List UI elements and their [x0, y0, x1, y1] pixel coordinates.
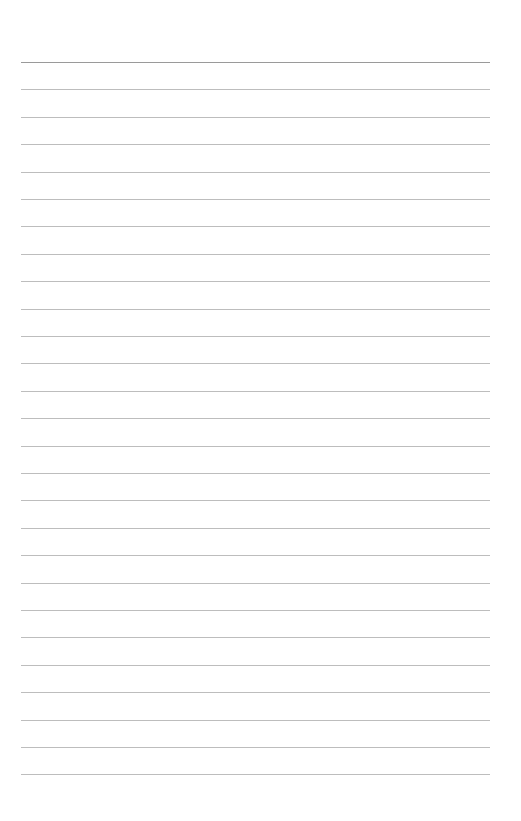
ruled-line — [21, 199, 490, 200]
ruled-line — [21, 89, 490, 90]
ruled-line — [21, 747, 490, 748]
ruled-line — [21, 363, 490, 364]
ruled-line — [21, 720, 490, 721]
ruled-line — [21, 309, 490, 310]
ruled-line — [21, 473, 490, 474]
ruled-line — [21, 254, 490, 255]
ruled-line — [21, 117, 490, 118]
ruled-line — [21, 774, 490, 775]
ruled-line — [21, 692, 490, 693]
ruled-line — [21, 62, 490, 63]
ruled-line — [21, 144, 490, 145]
ruled-line — [21, 500, 490, 501]
ruled-line — [21, 583, 490, 584]
ruled-line — [21, 446, 490, 447]
ruled-line — [21, 528, 490, 529]
ruled-line — [21, 665, 490, 666]
ruled-line — [21, 281, 490, 282]
ruled-line — [21, 555, 490, 556]
lined-paper-page — [0, 0, 521, 821]
ruled-line — [21, 226, 490, 227]
ruled-line — [21, 172, 490, 173]
ruled-line — [21, 336, 490, 337]
ruled-line — [21, 391, 490, 392]
ruled-line — [21, 418, 490, 419]
ruled-line — [21, 637, 490, 638]
ruled-line — [21, 610, 490, 611]
